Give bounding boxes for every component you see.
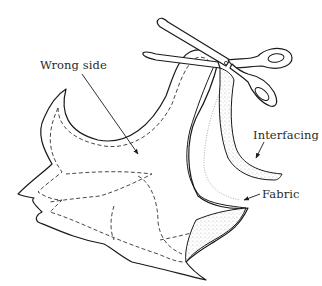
sewing-diagram bbox=[0, 0, 322, 286]
label-interfacing: Interfacing bbox=[253, 130, 319, 142]
scissors bbox=[143, 18, 292, 106]
label-fabric: Fabric bbox=[262, 189, 300, 201]
leader-fabric bbox=[244, 194, 260, 200]
scissors-lower-handle bbox=[230, 64, 277, 106]
leader-interfacing bbox=[256, 142, 264, 158]
scissors-pivot bbox=[224, 61, 227, 64]
label-wrong-side: Wrong side bbox=[40, 60, 107, 72]
fabric-piece bbox=[18, 50, 248, 280]
